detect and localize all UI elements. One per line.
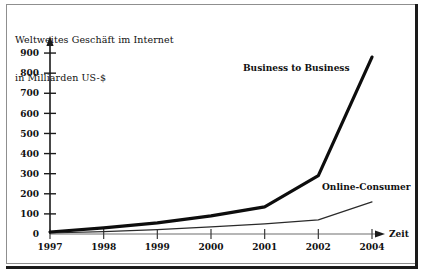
x-axis-tick-label: 2000: [198, 242, 223, 252]
y-axis-tick-label: 800: [20, 68, 39, 78]
chart-plot-area: 0100200300400500600700800900 19971998199…: [0, 0, 424, 278]
y-axis: 0100200300400500600700800900: [20, 36, 56, 239]
x-axis-tick-label: 1997: [37, 242, 62, 252]
y-axis-tick-label: 200: [20, 189, 39, 199]
x-axis-label: Zeit: [389, 229, 410, 239]
x-axis-arrow-icon: [375, 231, 385, 238]
series-line-business-to-business: [50, 57, 372, 232]
series-label-business-to-business: Business to Business: [243, 63, 350, 73]
x-axis-tick-label: 2002: [306, 242, 331, 252]
y-axis-tick-labels: 0100200300400500600700800900: [20, 48, 39, 239]
series-annotations: Business to Business Online-Consumer: [243, 63, 411, 192]
y-axis-tick-label: 0: [33, 229, 39, 239]
y-axis-tick-label: 900: [20, 48, 39, 58]
x-axis-tick-label: 2001: [252, 242, 277, 252]
y-axis-tick-label: 100: [20, 209, 39, 219]
y-axis-tick-label: 600: [20, 109, 39, 119]
x-axis-tick-label: 2004: [359, 242, 384, 252]
chart-figure: Weltweites Geschäft im Internet in Milli…: [0, 0, 424, 278]
y-axis-tick-label: 400: [20, 149, 39, 159]
y-axis-arrow-icon: [46, 36, 53, 46]
series-group: [50, 57, 372, 233]
y-axis-tick-label: 500: [20, 129, 39, 139]
series-label-online-consumer: Online-Consumer: [322, 182, 411, 192]
x-axis-tick-label: 1998: [91, 242, 116, 252]
y-axis-tick-label: 300: [20, 169, 39, 179]
y-axis-tick-label: 700: [20, 88, 39, 98]
x-axis-tick-labels: 1997199819992000200120022004: [37, 242, 384, 252]
x-axis-tick-label: 1999: [145, 242, 170, 252]
